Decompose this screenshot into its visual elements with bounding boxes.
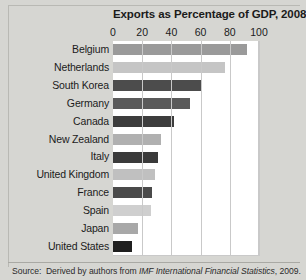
category-label-united-states: United States [0, 240, 109, 252]
bar-united-states [113, 241, 132, 252]
gridline-20 [142, 41, 143, 256]
bar-canada [113, 116, 174, 127]
bar-belgium [113, 44, 247, 55]
gridline-80 [230, 41, 231, 256]
category-label-japan: Japan [0, 222, 109, 234]
bar-row [113, 77, 259, 95]
category-label-new-zealand: New Zealand [0, 133, 109, 145]
gridline-100 [259, 41, 260, 256]
category-label-united-kingdom: United Kingdom [0, 168, 109, 180]
category-label-south-korea: South Korea [0, 79, 109, 91]
chart-title: Exports as Percentage of GDP, 2008 [113, 8, 303, 20]
x-tick-label-40: 40 [166, 26, 178, 38]
bar-germany [113, 98, 190, 109]
x-tick-label-20: 20 [136, 26, 148, 38]
source-lead-text: Derived by authors from [46, 266, 139, 276]
bar-japan [113, 223, 138, 234]
x-tick-label-80: 80 [224, 26, 236, 38]
category-label-netherlands: Netherlands [0, 61, 109, 73]
x-tick-label-60: 60 [195, 26, 207, 38]
category-label-canada: Canada [0, 115, 109, 127]
bar-south-korea [113, 80, 202, 91]
bar-row [113, 149, 259, 167]
bar-italy [113, 152, 158, 163]
source-publication-title: IMF International Financial Statistics [139, 266, 275, 276]
source-prefix: Source: [12, 266, 41, 276]
bar-row [113, 95, 259, 113]
bar-row [113, 41, 259, 59]
category-label-germany: Germany [0, 97, 109, 109]
bar-row [113, 202, 259, 220]
category-label-italy: Italy [0, 150, 109, 162]
category-label-belgium: Belgium [0, 43, 109, 55]
bar-row [113, 184, 259, 202]
bar-row [113, 131, 259, 149]
category-label-france: France [0, 186, 109, 198]
bar-united-kingdom [113, 169, 155, 180]
source-note: Source: Derived by authors from IMF Inte… [12, 266, 301, 276]
bar-row [113, 220, 259, 238]
bar-row [113, 59, 259, 77]
figure-top-rule [8, 5, 300, 6]
chart-figure: Exports as Percentage of GDP, 2008 02040… [0, 0, 306, 280]
bar-spain [113, 205, 151, 216]
bar-row [113, 113, 259, 131]
category-axis-labels: BelgiumNetherlandsSouth KoreaGermanyCana… [0, 41, 109, 256]
gridline-60 [201, 41, 202, 256]
source-suffix: , 2009. [275, 266, 301, 276]
gridline-40 [171, 41, 172, 256]
category-label-spain: Spain [0, 204, 109, 216]
bar-netherlands [113, 62, 225, 73]
x-tick-label-0: 0 [110, 26, 116, 38]
bar-new-zealand [113, 134, 161, 145]
bar-france [113, 187, 152, 198]
bars-layer [113, 41, 259, 256]
x-tick-label-100: 100 [250, 26, 268, 38]
x-axis-tick-labels: 020406080100 [0, 26, 306, 40]
bar-row [113, 238, 259, 256]
bar-row [113, 166, 259, 184]
source-divider [8, 262, 300, 263]
plot-area [113, 41, 259, 256]
